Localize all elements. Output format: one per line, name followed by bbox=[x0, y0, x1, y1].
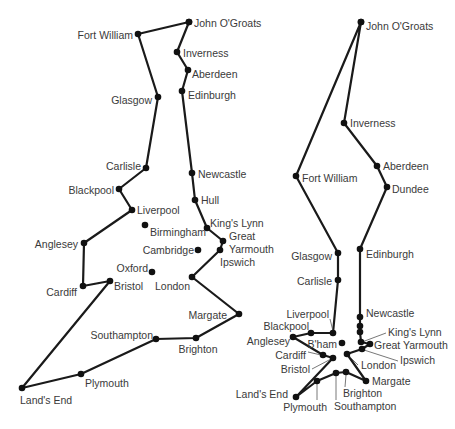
city-label: Newcastle bbox=[366, 307, 415, 319]
city-label: Plymouth bbox=[85, 377, 129, 389]
city-label: Southampton bbox=[91, 329, 154, 341]
city-dot bbox=[358, 19, 365, 26]
city-label: Liverpool bbox=[286, 308, 329, 320]
city-label: Great Yarmouth bbox=[374, 339, 448, 351]
city-dot bbox=[185, 67, 192, 74]
city-dot bbox=[330, 330, 337, 337]
city-dot bbox=[81, 240, 88, 247]
city-label: Margate bbox=[188, 309, 227, 321]
city-label: Brighton bbox=[343, 387, 382, 399]
city-label: Brighton bbox=[178, 343, 217, 355]
city-dot bbox=[155, 94, 162, 101]
city-dot bbox=[293, 173, 300, 180]
city-dot bbox=[153, 336, 160, 343]
city-label: Cambridge bbox=[143, 244, 195, 256]
city-label: Oxford bbox=[116, 262, 148, 274]
city-dot bbox=[357, 323, 364, 330]
city-dot bbox=[19, 385, 26, 392]
city-label: Southampton bbox=[334, 400, 397, 412]
city-dot bbox=[192, 197, 199, 204]
city-label: Inverness bbox=[350, 117, 396, 129]
city-label: Glasgow bbox=[111, 94, 152, 106]
label-leader-line bbox=[330, 319, 333, 331]
left-map-tour: John O'GroatsInvernessAberdeenEdinburghN… bbox=[19, 17, 274, 406]
city-label: Bristol bbox=[281, 363, 310, 375]
city-label: Fort William bbox=[78, 29, 134, 41]
city-label: London bbox=[361, 359, 396, 371]
city-label: Aberdeen bbox=[383, 160, 429, 172]
city-dot bbox=[314, 378, 321, 385]
city-dot bbox=[189, 170, 196, 177]
city-label: Blackpool bbox=[263, 320, 309, 332]
unvisited-city-dot bbox=[339, 340, 346, 347]
city-label: John O'Groats bbox=[366, 20, 433, 32]
city-dot bbox=[358, 339, 365, 346]
city-label: Birmingham bbox=[150, 226, 206, 238]
city-label: B'ham bbox=[308, 338, 338, 350]
label-leader-line bbox=[345, 375, 346, 387]
city-label: Ipswich bbox=[220, 256, 255, 268]
city-label: Anglesey bbox=[35, 238, 79, 250]
city-label: John O'Groats bbox=[194, 17, 261, 29]
city-label: Newcastle bbox=[198, 168, 247, 180]
city-dot bbox=[236, 311, 243, 318]
city-dot bbox=[293, 394, 300, 401]
city-dot bbox=[341, 120, 348, 127]
city-label: London bbox=[155, 280, 190, 292]
city-label: Edinburgh bbox=[366, 248, 414, 260]
city-label: Anglesey bbox=[247, 335, 291, 347]
city-label: Inverness bbox=[183, 47, 229, 59]
city-dot bbox=[135, 31, 142, 38]
city-label: Fort William bbox=[302, 172, 358, 184]
city-label: Cardiff bbox=[275, 349, 306, 361]
city-dot bbox=[116, 186, 123, 193]
city-dot bbox=[143, 165, 150, 172]
city-dot bbox=[174, 49, 181, 56]
city-dot bbox=[363, 378, 370, 385]
city-label: Plymouth bbox=[283, 401, 327, 413]
city-label: Carlisle bbox=[297, 275, 332, 287]
city-dot bbox=[333, 370, 340, 377]
city-dot bbox=[290, 334, 297, 341]
unvisited-city-dot bbox=[142, 222, 149, 229]
city-label: Great bbox=[229, 230, 255, 242]
city-dot bbox=[186, 19, 193, 26]
tsp-diagram: John O'GroatsInvernessAberdeenEdinburghN… bbox=[0, 0, 455, 429]
city-label: Land's End bbox=[20, 394, 72, 406]
city-dot bbox=[344, 351, 351, 358]
city-label: Liverpool bbox=[137, 204, 180, 216]
city-label: King's Lynn bbox=[388, 326, 442, 338]
city-dot bbox=[320, 352, 327, 359]
city-label: Blackpool bbox=[68, 184, 114, 196]
city-dot bbox=[359, 346, 366, 353]
city-dot bbox=[78, 371, 85, 378]
city-label: Edinburgh bbox=[188, 89, 236, 101]
city-label: Aberdeen bbox=[192, 68, 238, 80]
city-label: Cardiff bbox=[46, 286, 77, 298]
city-dot bbox=[367, 341, 374, 348]
city-dot bbox=[107, 278, 114, 285]
city-label: Ipswich bbox=[400, 354, 435, 366]
city-dot bbox=[357, 329, 364, 336]
city-dot bbox=[179, 88, 186, 95]
city-label: Margate bbox=[372, 375, 411, 387]
city-label: Yarmouth bbox=[229, 243, 274, 255]
city-label: Carlisle bbox=[106, 160, 141, 172]
city-dot bbox=[193, 335, 200, 342]
city-dot bbox=[129, 207, 136, 214]
city-label: Hull bbox=[201, 194, 219, 206]
city-dot bbox=[335, 277, 342, 284]
city-dot bbox=[357, 246, 364, 253]
city-dot bbox=[384, 184, 391, 191]
city-label: King's Lynn bbox=[210, 217, 264, 229]
city-dot bbox=[80, 283, 87, 290]
city-label: Dundee bbox=[392, 183, 429, 195]
city-dot bbox=[357, 314, 364, 321]
city-label: Glasgow bbox=[291, 250, 332, 262]
city-label: Land's End bbox=[236, 388, 288, 400]
right-map-tour: John O'GroatsInvernessAberdeenDundeeFort… bbox=[236, 19, 448, 413]
city-dot bbox=[330, 355, 337, 362]
city-dot bbox=[343, 369, 350, 376]
city-dot bbox=[220, 238, 227, 245]
city-dot bbox=[374, 163, 381, 170]
